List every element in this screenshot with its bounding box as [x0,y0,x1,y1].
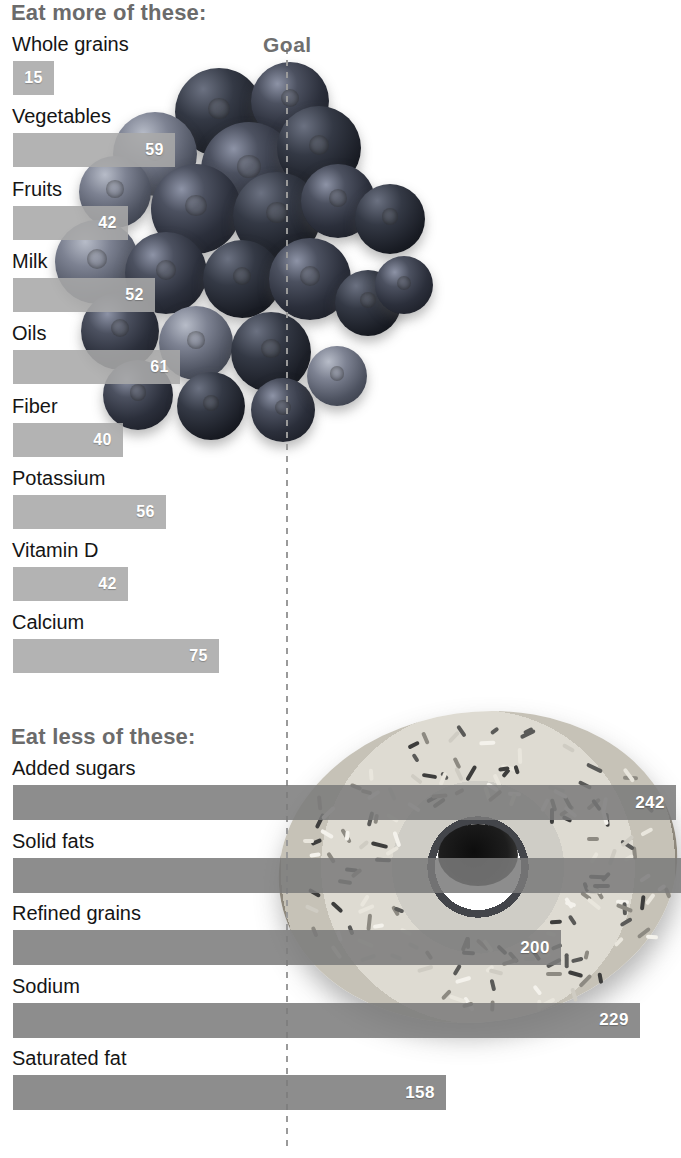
bar-value: 158 [405,1083,446,1103]
bar-value: 52 [125,286,155,304]
bar-saturated-fat: 158 [13,1075,446,1110]
bar-label-oils: Oils [12,322,46,345]
donut-sprinkle [550,919,562,924]
bar-label-vegetables: Vegetables [12,105,111,128]
donut-sprinkle [571,988,579,1003]
donut-sprinkle [586,762,603,773]
donut-sprinkle [616,900,629,905]
donut-sprinkle [311,838,323,846]
bar-value: 40 [93,431,123,449]
donut-sprinkle [583,950,589,960]
donut-sprinkle [498,767,510,772]
donut-sprinkle [320,828,334,839]
donut-sprinkle [452,964,462,977]
blueberry [375,256,433,314]
bar-label-sodium: Sodium [12,975,80,998]
donut-sprinkle [565,897,575,909]
blueberry [251,62,329,140]
bar-label-potassium: Potassium [12,467,105,490]
section-heading-eat-more: Eat more of these: [11,0,207,26]
bar-label-calcium: Calcium [12,611,84,634]
donut-sprinkle [370,841,387,849]
section-heading-eat-less: Eat less of these: [11,724,196,750]
goal-label: Goal [263,33,312,57]
donut-sprinkle [620,839,635,850]
donut-sprinkle [587,837,599,841]
donut-sprinkle [412,753,420,763]
donut-sprinkle [623,768,635,783]
donut-sprinkle [485,964,495,973]
blueberry [201,122,297,218]
donut-sprinkle [645,893,656,906]
bar-value: 42 [98,214,128,232]
bar-value: 61 [150,358,180,376]
donut-sprinkle [454,767,464,781]
bar-whole-grains: 15 [13,61,54,95]
donut-sprinkle [570,957,583,964]
blueberry [233,172,321,260]
donut-sprinkle [479,740,496,745]
donut-sprinkle [513,765,520,775]
donut-sprinkle [565,900,577,907]
donut-sprinkle [447,731,459,744]
donut-sprinkle [411,773,424,784]
donut-sprinkle [501,767,510,777]
bar-label-whole-grains: Whole grains [12,33,129,56]
donut-sprinkle [373,923,385,929]
donut-sprinkle [422,773,437,779]
donut-sprinkle [440,771,449,780]
donut-sprinkle [421,732,430,745]
blueberry [277,106,361,190]
blueberry [355,184,425,254]
blueberry [301,164,375,238]
donut-sprinkle [454,976,471,984]
bar-value: 15 [24,69,54,87]
donut-sprinkle [490,727,500,736]
bar-solid-fats [13,858,681,893]
goal-reference-line [286,48,288,1146]
donut-sprinkle [620,917,633,927]
donut-sprinkle [500,764,517,772]
bar-value: 200 [520,938,561,958]
donut-sprinkle [368,769,373,782]
bar-value: 42 [98,575,128,593]
donut-sprinkle [621,835,635,848]
bar-added-sugars: 242 [13,785,676,820]
donut-sprinkle [385,845,399,856]
bar-value: 242 [635,793,676,813]
donut-sprinkle [518,748,523,764]
blueberry [335,270,401,336]
donut-sprinkle [358,904,375,914]
donut-sprinkle [546,972,562,976]
donut-sprinkle [640,827,654,837]
donut-sprinkle [360,894,371,907]
donut-sprinkle [568,970,583,978]
donut-sprinkle [303,838,314,842]
blueberry [151,164,241,254]
donut-sprinkle [453,756,462,768]
donut-sprinkle [341,828,353,844]
blueberry [269,238,351,320]
bar-label-vitamin-d: Vitamin D [12,539,98,562]
blueberry [307,346,367,406]
bar-sodium: 229 [13,1003,640,1038]
bar-label-milk: Milk [12,250,48,273]
bar-value: 229 [599,1010,640,1030]
donut-sprinkle [587,898,602,911]
bar-label-fruits: Fruits [12,178,62,201]
donut-sprinkle [616,903,633,913]
bar-value: 56 [136,503,166,521]
blueberries-photo [55,60,455,480]
bar-vitamin-d: 42 [13,567,128,601]
donut-sprinkle [646,935,658,940]
donut-sprinkle [366,914,372,931]
donut-sprinkle [490,979,497,991]
bar-value: 59 [145,141,175,159]
bar-label-fiber: Fiber [12,395,58,418]
bar-calcium: 75 [13,639,219,673]
donut-sprinkle [331,900,344,912]
donut-sprinkle [567,914,576,925]
bar-label-saturated-fat: Saturated fat [12,1047,127,1070]
donut-sprinkle [417,965,434,973]
bar-fiber: 40 [13,423,123,457]
